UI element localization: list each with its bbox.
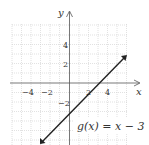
y-axis-label: y: [57, 7, 64, 18]
function-graph: y x −4 −2 2 4 4 2 −2 g(x) = x − 3: [0, 0, 149, 145]
y-tick-label: 4: [63, 41, 68, 50]
x-tick-label: 4: [105, 88, 110, 97]
x-axis-label: x: [136, 86, 142, 97]
function-label: g(x) = x − 3: [77, 120, 144, 133]
y-tick-label: −2: [58, 99, 70, 108]
y-axis: [67, 11, 73, 145]
y-tick-label: 2: [63, 60, 68, 69]
x-axis: [10, 80, 140, 86]
x-tick-label: −2: [41, 88, 53, 97]
x-tick-label: −4: [22, 88, 34, 97]
